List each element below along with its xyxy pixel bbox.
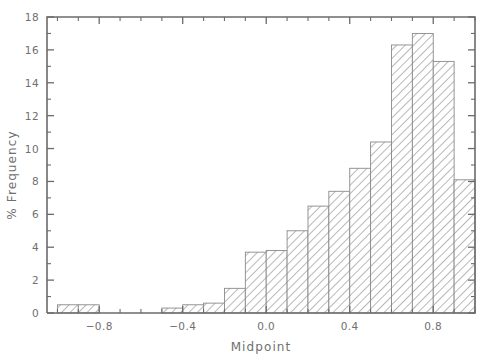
bars-group bbox=[57, 33, 475, 313]
histogram-bar bbox=[350, 168, 371, 313]
histogram-bar bbox=[454, 180, 475, 313]
histogram-bar bbox=[266, 251, 287, 313]
histogram-bar bbox=[371, 142, 392, 313]
y-axis-title: % Frequency bbox=[5, 130, 19, 219]
histogram-chart: −0.8−0.40.00.40.8 024681012141618 Midpoi… bbox=[0, 0, 492, 360]
x-tick-label: −0.8 bbox=[86, 320, 113, 332]
x-tick-label: −0.4 bbox=[169, 320, 196, 332]
y-tick-label: 14 bbox=[25, 77, 39, 89]
y-tick-label: 18 bbox=[25, 11, 39, 23]
histogram-bar bbox=[183, 305, 204, 313]
histogram-bar bbox=[329, 191, 350, 313]
y-tick-label: 2 bbox=[32, 274, 39, 286]
histogram-bar bbox=[412, 33, 433, 313]
histogram-bar bbox=[224, 288, 245, 313]
x-tick-label: 0.8 bbox=[424, 320, 442, 332]
y-tick-label: 10 bbox=[25, 143, 39, 155]
y-tick-label: 16 bbox=[25, 44, 39, 56]
y-tick-label: 12 bbox=[25, 110, 39, 122]
x-axis-tick-labels: −0.8−0.40.00.40.8 bbox=[86, 320, 443, 332]
histogram-bar bbox=[204, 303, 225, 313]
histogram-bar bbox=[391, 45, 412, 313]
x-tick-label: 0.0 bbox=[257, 320, 275, 332]
y-tick-label: 8 bbox=[32, 175, 39, 187]
y-tick-label: 0 bbox=[32, 307, 39, 319]
y-tick-label: 6 bbox=[32, 208, 39, 220]
histogram-bar bbox=[433, 61, 454, 313]
histogram-bar bbox=[308, 206, 329, 313]
x-axis-title: Midpoint bbox=[231, 340, 292, 354]
histogram-bar bbox=[245, 252, 266, 313]
y-tick-label: 4 bbox=[32, 241, 39, 253]
chart-canvas: −0.8−0.40.00.40.8 024681012141618 Midpoi… bbox=[0, 0, 492, 360]
x-tick-label: 0.4 bbox=[341, 320, 359, 332]
y-axis-tick-labels: 024681012141618 bbox=[25, 11, 39, 319]
histogram-bar bbox=[57, 305, 78, 313]
histogram-bar bbox=[78, 305, 99, 313]
histogram-bar bbox=[287, 231, 308, 313]
